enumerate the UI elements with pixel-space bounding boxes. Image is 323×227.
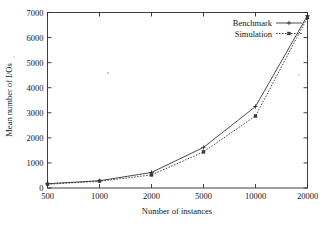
legend-label-simulation: Simulation bbox=[235, 29, 273, 39]
data-point-marker bbox=[202, 150, 205, 153]
series-line-simulation bbox=[48, 18, 308, 185]
y-tick-label: 5000 bbox=[27, 58, 44, 68]
chart-legend: BenchmarkSimulation bbox=[233, 18, 302, 39]
y-tick-label: 6000 bbox=[27, 33, 44, 43]
data-point-marker bbox=[287, 21, 291, 25]
data-point-marker bbox=[254, 115, 257, 118]
y-tick-label: 7000 bbox=[27, 8, 44, 18]
line-chart: 01000200030004000500060007000 5001000200… bbox=[0, 0, 323, 227]
x-axis: 5001000200050001000020000 bbox=[41, 13, 318, 202]
series-line-benchmark bbox=[48, 16, 308, 184]
legend-label-benchmark: Benchmark bbox=[233, 18, 273, 28]
paper-speck bbox=[107, 72, 109, 74]
data-point-marker bbox=[150, 174, 153, 177]
x-tick-label: 20000 bbox=[297, 191, 318, 201]
paper-speck bbox=[13, 56, 14, 57]
y-tick-label: 1000 bbox=[27, 158, 44, 168]
data-point-marker bbox=[288, 32, 291, 35]
series-group bbox=[45, 13, 309, 186]
x-axis-title: Number of instances bbox=[142, 206, 212, 216]
y-tick-label: 3000 bbox=[27, 108, 44, 118]
plot-frame bbox=[48, 13, 308, 189]
x-tick-label: 2000 bbox=[143, 191, 160, 201]
x-tick-label: 10000 bbox=[245, 191, 266, 201]
y-axis-title: Mean number of I/Os bbox=[4, 63, 14, 136]
data-point-marker bbox=[306, 16, 309, 19]
data-point-marker bbox=[46, 183, 49, 186]
paper-speck bbox=[298, 74, 300, 76]
data-point-marker bbox=[98, 180, 101, 183]
y-tick-label: 2000 bbox=[27, 133, 44, 143]
y-tick-label: 4000 bbox=[27, 83, 44, 93]
chart-container: 01000200030004000500060007000 5001000200… bbox=[0, 0, 323, 227]
x-tick-label: 1000 bbox=[91, 191, 108, 201]
x-tick-label: 5000 bbox=[195, 191, 212, 201]
x-tick-label: 500 bbox=[41, 191, 54, 201]
